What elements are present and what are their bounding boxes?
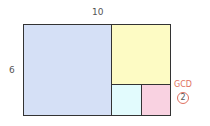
square-6x6 (23, 24, 112, 116)
gcd-label: GCD (174, 80, 192, 89)
width-label: 10 (92, 7, 103, 17)
gcd-value-circle: 2 (177, 92, 189, 104)
height-label: 6 (9, 65, 15, 75)
square-4x4 (111, 24, 171, 85)
square-2x2-a (111, 84, 142, 116)
square-2x2-b (141, 84, 171, 116)
